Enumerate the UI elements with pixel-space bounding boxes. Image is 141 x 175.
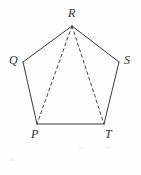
diagonal-rt xyxy=(72,26,104,124)
vertex-label-p: P xyxy=(31,128,38,140)
pentagon-diagonals xyxy=(37,26,104,124)
edge-qr xyxy=(23,26,72,62)
pentagon-svg xyxy=(0,0,141,175)
vertex-label-r: R xyxy=(68,7,75,19)
geometry-figure: R Q S P T xyxy=(0,0,141,175)
vertex-label-t: T xyxy=(105,128,112,140)
diagonal-rp xyxy=(37,26,72,124)
edge-st xyxy=(104,62,119,124)
edge-rs xyxy=(72,26,119,62)
edge-pq xyxy=(23,62,37,124)
vertex-label-s: S xyxy=(124,54,130,66)
vertex-label-q: Q xyxy=(9,54,18,66)
pentagon-outline xyxy=(23,26,119,124)
